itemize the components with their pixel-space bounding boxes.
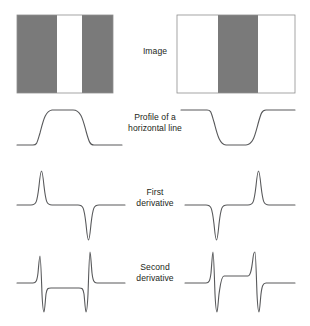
row-label-second-line2: derivative <box>136 273 173 283</box>
row-label-second-line1: Second <box>140 262 169 272</box>
row-label-profile-line2: horizontal line <box>128 123 182 133</box>
right-image-panel <box>177 15 295 93</box>
row-label-first-line2: derivative <box>136 198 173 208</box>
row-label-first-line1: First <box>147 187 164 197</box>
left-panel-stripe-light <box>57 15 82 93</box>
left-panel-stripe-dark-1 <box>17 15 57 93</box>
row-label-profile: Profile of ahorizontal line <box>112 112 198 133</box>
left-image-panel <box>17 15 113 93</box>
row-label-profile-line1: Profile of a <box>134 112 176 122</box>
row-label-first-derivative: Firstderivative <box>118 187 192 208</box>
left-panel-stripe-dark-2 <box>82 15 113 93</box>
row-label-second-derivative: Secondderivative <box>115 262 195 283</box>
row-label-image: Image <box>118 46 192 57</box>
right-panel-stripe-dark <box>218 15 258 93</box>
right-panel-stripe-light-2 <box>258 15 295 93</box>
